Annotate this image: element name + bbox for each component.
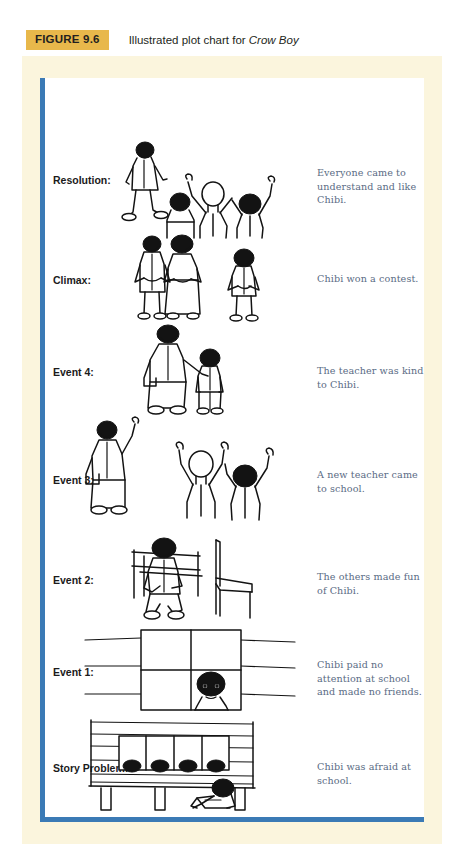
plot-row-event-1: Event 1: bbox=[45, 624, 424, 714]
figure-caption-title: Crow Boy bbox=[249, 34, 299, 46]
row-label-resolution: Resolution: bbox=[53, 174, 111, 186]
row-label-event-4: Event 4: bbox=[53, 366, 94, 378]
row-note-story-problem: Chibi was afraid at school. bbox=[317, 760, 429, 787]
figure-caption-row: FIGURE 9.6 Illustrated plot chart for Cr… bbox=[0, 28, 464, 52]
row-art-event-1 bbox=[85, 624, 295, 714]
row-note-event-3: A new teacher came to school. bbox=[317, 468, 429, 495]
row-label-climax: Climax: bbox=[53, 274, 91, 286]
row-note-event-1: Chibi paid no attention at school and ma… bbox=[317, 658, 429, 699]
plot-row-resolution: Resolution: bbox=[45, 138, 424, 238]
figure-caption: Illustrated plot chart for Crow Boy bbox=[129, 34, 299, 46]
plot-row-event-4: Event 4: bbox=[45, 322, 424, 418]
row-art-event-3 bbox=[75, 418, 295, 528]
plot-row-event-3: Event 3: bbox=[45, 418, 424, 528]
figure-page: FIGURE 9.6 Illustrated plot chart for Cr… bbox=[0, 0, 464, 844]
plot-chart-rows: Resolution: bbox=[45, 78, 424, 818]
plot-row-event-2: Event 2: bbox=[45, 526, 424, 622]
plot-row-story-problem: Story Problem: bbox=[45, 716, 424, 812]
figure-caption-prefix: Illustrated plot chart for bbox=[129, 34, 249, 46]
row-note-event-4: The teacher was kind to Chibi. bbox=[317, 364, 429, 391]
row-art-resolution bbox=[120, 138, 290, 238]
row-art-event-2 bbox=[120, 526, 290, 622]
row-art-climax bbox=[120, 230, 290, 322]
row-art-event-4 bbox=[120, 322, 290, 418]
row-label-event-2: Event 2: bbox=[53, 574, 94, 586]
row-note-event-2: The others made fun of Chibi. bbox=[317, 570, 429, 597]
row-note-climax: Chibi won a contest. bbox=[317, 272, 429, 286]
row-art-story-problem bbox=[85, 716, 295, 812]
figure-number-tag: FIGURE 9.6 bbox=[26, 30, 109, 50]
row-note-resolution: Everyone came to understand and like Chi… bbox=[317, 166, 429, 207]
plot-row-climax: Climax: bbox=[45, 230, 424, 322]
